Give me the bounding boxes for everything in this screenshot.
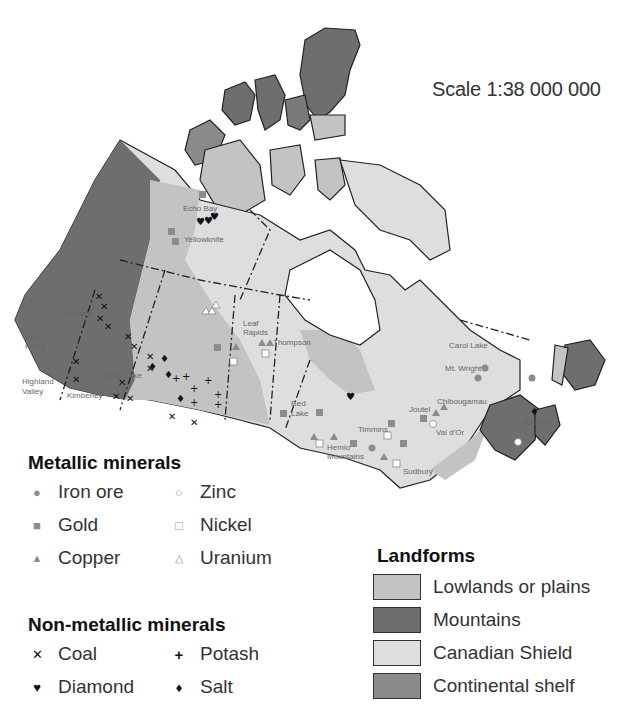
svg-text:✕: ✕ bbox=[112, 391, 120, 402]
lowlands-swatch bbox=[373, 574, 421, 600]
landform-label: Canadian Shield bbox=[433, 642, 572, 664]
place-label: Hemlo bbox=[327, 443, 351, 452]
legend-label: Gold bbox=[58, 514, 98, 536]
place-label: Yellowknife bbox=[184, 235, 224, 244]
place-label: Highland bbox=[22, 377, 54, 386]
plus-icon: + bbox=[170, 646, 188, 663]
legend-item-salt: ♦ Salt bbox=[170, 675, 233, 699]
landforms-title: Landforms bbox=[377, 545, 475, 567]
svg-text:♥: ♥ bbox=[346, 391, 355, 402]
legend-item-iron-ore: ● Iron ore bbox=[28, 480, 123, 504]
landform-mountains: Mountains bbox=[373, 606, 521, 634]
legend-item-copper: ▲ Copper bbox=[28, 546, 120, 570]
legend-item-coal: ✕ Coal bbox=[28, 642, 97, 666]
non-metallic-minerals-title: Non-metallic minerals bbox=[28, 614, 225, 636]
legend-label: Potash bbox=[200, 643, 259, 665]
legend-label: Copper bbox=[58, 547, 120, 569]
legend-label: Diamond bbox=[58, 676, 134, 698]
svg-text:♦: ♦ bbox=[530, 406, 539, 417]
place-label: Port bbox=[25, 333, 40, 342]
svg-text:+: + bbox=[172, 373, 180, 384]
place-label: Carol Lake bbox=[449, 341, 488, 350]
legend-item-uranium: △ Uranium bbox=[170, 546, 272, 570]
shelf-swatch bbox=[373, 673, 421, 699]
svg-text:+: + bbox=[214, 399, 222, 410]
svg-text:+: + bbox=[190, 383, 198, 394]
svg-text:✕: ✕ bbox=[100, 301, 108, 312]
place-label: Hardy bbox=[25, 342, 46, 351]
svg-text:✕: ✕ bbox=[104, 321, 112, 332]
place-label: Kimberley bbox=[67, 391, 103, 400]
legend-item-zinc: ○ Zinc bbox=[170, 480, 236, 504]
svg-text:+: + bbox=[190, 397, 198, 408]
filled-square-icon: ■ bbox=[28, 518, 46, 533]
place-label: Thompson bbox=[273, 338, 311, 347]
place-label: Timmins bbox=[358, 425, 388, 434]
legend-label: Iron ore bbox=[58, 481, 123, 503]
landform-label: Mountains bbox=[433, 609, 521, 631]
filled-circle-icon: ● bbox=[28, 485, 46, 500]
place-label: Rapids bbox=[243, 328, 268, 337]
place-label: Sudbury bbox=[403, 467, 433, 476]
place-label: Lake bbox=[291, 409, 309, 418]
landform-shield: Canadian Shield bbox=[373, 639, 572, 667]
map-scale-label: Scale 1:38 000 000 bbox=[432, 78, 601, 101]
landform-label: Lowlands or plains bbox=[433, 576, 590, 598]
place-label: Val d'Or bbox=[436, 428, 464, 437]
metallic-minerals-title: Metallic minerals bbox=[28, 452, 181, 474]
hollow-triangle-icon: △ bbox=[170, 552, 188, 565]
legend-label: Nickel bbox=[200, 514, 252, 536]
hollow-square-icon: □ bbox=[170, 518, 188, 533]
legend-item-nickel: □ Nickel bbox=[170, 513, 252, 537]
hollow-circle-icon: ○ bbox=[170, 485, 188, 500]
place-label: Valley bbox=[22, 387, 43, 396]
svg-text:✕: ✕ bbox=[130, 341, 138, 352]
place-label: Red bbox=[291, 399, 306, 408]
filled-triangle-icon: ▲ bbox=[28, 552, 46, 564]
legend-label: Salt bbox=[200, 676, 233, 698]
svg-text:✕: ✕ bbox=[168, 411, 176, 422]
legend-item-gold: ■ Gold bbox=[28, 513, 98, 537]
landform-shelf: Continental shelf bbox=[373, 672, 575, 700]
diamond-icon: ♦ bbox=[170, 680, 188, 695]
svg-text:+: + bbox=[182, 371, 190, 382]
place-label: Echo Bay bbox=[183, 204, 217, 213]
legend-label: Zinc bbox=[200, 481, 236, 503]
landform-lowlands: Lowlands or plains bbox=[373, 573, 590, 601]
canada-minerals-map: ✕✕✕✕ ✕✕✕✕ ✕✕✕✕ ✕✕✕ ++++ +++ ♦♦♦♦♦ ♥♥♥♥ E… bbox=[0, 0, 630, 720]
x-cross-icon: ✕ bbox=[28, 647, 46, 662]
svg-text:♦: ♦ bbox=[176, 393, 185, 404]
place-label: Bathurst bbox=[523, 418, 554, 427]
place-label: Logan Lake bbox=[100, 371, 142, 380]
svg-text:+: + bbox=[204, 375, 212, 386]
svg-text:♦: ♦ bbox=[164, 369, 173, 380]
place-label: Mt. Wright bbox=[445, 364, 482, 373]
legend-item-potash: + Potash bbox=[170, 642, 259, 666]
place-label: Leaf bbox=[243, 319, 259, 328]
shield-swatch bbox=[373, 640, 421, 666]
svg-text:✕: ✕ bbox=[72, 356, 80, 367]
place-label: Mountains bbox=[327, 452, 364, 461]
svg-text:♦: ♦ bbox=[160, 353, 169, 364]
place-label: Joutel bbox=[409, 405, 431, 414]
place-label: Chibougamau bbox=[437, 397, 487, 406]
svg-text:✕: ✕ bbox=[126, 393, 134, 404]
svg-text:♦: ♦ bbox=[148, 361, 157, 372]
svg-text:✕: ✕ bbox=[72, 374, 80, 385]
place-label: Houston bbox=[64, 309, 94, 318]
legend-item-diamond: ♥ Diamond bbox=[28, 675, 134, 699]
legend-label: Coal bbox=[58, 643, 97, 665]
mountains-swatch bbox=[373, 607, 421, 633]
svg-text:✕: ✕ bbox=[190, 417, 198, 428]
diamond-gem-icon: ♥ bbox=[28, 680, 46, 695]
landform-label: Continental shelf bbox=[433, 675, 575, 697]
legend-label: Uranium bbox=[200, 547, 272, 569]
